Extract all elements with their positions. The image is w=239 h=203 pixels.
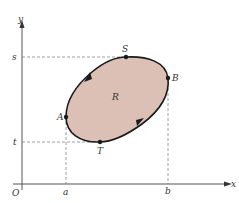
region-r-label: R: [111, 92, 119, 102]
t-tick-label: t: [13, 137, 17, 147]
point-s-label: S: [122, 44, 128, 54]
diagram-canvas: y x O s t a b S B A T R: [0, 0, 239, 203]
origin-label: O: [12, 188, 20, 198]
b-tick-label: b: [165, 186, 171, 196]
point-t: [98, 140, 102, 144]
point-s: [124, 55, 128, 59]
point-t-label: T: [97, 146, 104, 156]
x-axis-label: x: [231, 179, 236, 189]
point-b: [166, 76, 170, 80]
point-a: [64, 115, 68, 119]
s-tick-label: s: [12, 52, 17, 62]
point-b-label: B: [171, 73, 179, 83]
point-a-label: A: [56, 112, 64, 122]
a-tick-label: a: [63, 187, 68, 197]
y-axis-label: y: [17, 14, 24, 24]
